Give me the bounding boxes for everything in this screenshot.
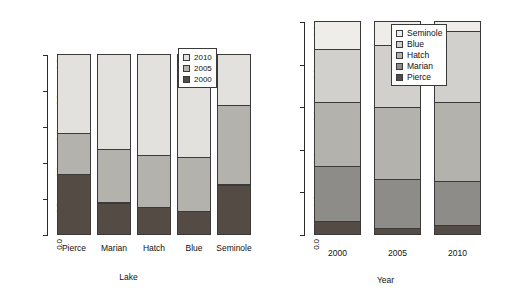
chart-panel-lake: 0.00.20.40.60.81.0PierceMarianHatchBlueS… (0, 0, 257, 301)
bar-segment-marian (434, 181, 481, 227)
bar-segment-hatch (314, 102, 361, 167)
legend-item-label: 2010 (194, 53, 212, 62)
x-axis-title-year: Year (257, 275, 514, 285)
bar-segment-seminole (314, 21, 361, 50)
bar-segment-marian (374, 179, 421, 229)
legend-years[interactable]: 201020052000 (178, 48, 217, 88)
y-axis-tick (43, 163, 47, 164)
legend-item-label: 2000 (194, 75, 212, 84)
legend-swatch-icon (183, 76, 190, 83)
bar-segment-2000 (177, 211, 211, 235)
bar-hatch (137, 55, 171, 235)
legend-item-seminole[interactable]: Seminole (396, 28, 442, 38)
legend-item-label: Hatch (407, 51, 429, 60)
legend-item-label: 2005 (194, 64, 212, 73)
legend-item-hatch[interactable]: Hatch (396, 50, 442, 60)
bar-segment-hatch (434, 102, 481, 182)
bar-segment-pierce (434, 225, 481, 235)
bar-segment-2000 (137, 207, 171, 235)
bar-marian (97, 55, 131, 235)
bar-segment-pierce (314, 221, 361, 235)
bar-segment-marian (314, 166, 361, 222)
bar-segment-2010 (97, 54, 131, 150)
chart-panel-year: 0.00.20.40.60.81.0200020052010 SeminoleB… (257, 0, 514, 301)
legend-swatch-icon (396, 30, 403, 37)
y-axis-tick (43, 91, 47, 92)
y-axis-tick (43, 235, 47, 236)
y-axis-tick (300, 192, 304, 193)
x-axis-label-seminole: Seminole (205, 243, 263, 253)
legend-item-2010[interactable]: 2010 (183, 52, 212, 62)
figure-root: 0.00.20.40.60.81.0PierceMarianHatchBlueS… (0, 0, 514, 301)
legend-item-blue[interactable]: Blue (396, 39, 442, 49)
bar-segment-2000 (57, 174, 91, 235)
bar-segment-2005 (97, 149, 131, 203)
legend-item-label: Seminole (407, 29, 442, 38)
bar-segment-2010 (57, 54, 91, 134)
bar-2000 (314, 22, 361, 235)
bar-segment-hatch (374, 107, 421, 179)
y-axis-tick (300, 150, 304, 151)
legend-item-label: Marian (407, 62, 433, 71)
legend-swatch-icon (183, 65, 190, 72)
bar-segment-2005 (137, 155, 171, 208)
bar-segment-blue (314, 49, 361, 103)
y-axis-tick (43, 127, 47, 128)
bar-segment-2010 (217, 54, 251, 106)
y-axis-tick (300, 107, 304, 108)
x-axis-title-lake: Lake (0, 272, 257, 282)
y-axis-tick (300, 65, 304, 66)
y-axis-tick (43, 55, 47, 56)
legend-item-2005[interactable]: 2005 (183, 63, 212, 73)
bar-segment-2000 (217, 185, 251, 236)
legend-item-label: Blue (407, 40, 424, 49)
legend-lakes[interactable]: SeminoleBlueHatchMarianPierce (391, 24, 447, 86)
bar-pierce (57, 55, 91, 235)
bar-segment-2000 (97, 203, 131, 236)
y-axis-line (47, 55, 48, 236)
legend-swatch-icon (396, 63, 403, 70)
legend-swatch-icon (396, 74, 403, 81)
legend-item-pierce[interactable]: Pierce (396, 72, 442, 82)
bar-segment-2010 (137, 54, 171, 156)
bar-segment-pierce (374, 228, 421, 235)
legend-item-marian[interactable]: Marian (396, 61, 442, 71)
bar-seminole (217, 55, 251, 235)
legend-item-label: Pierce (407, 73, 431, 82)
x-axis-label-2010: 2010 (422, 248, 493, 258)
legend-swatch-icon (396, 41, 403, 48)
bar-segment-2005 (217, 105, 251, 185)
y-axis-tick (300, 235, 304, 236)
y-axis-line (304, 22, 305, 236)
legend-item-2000[interactable]: 2000 (183, 74, 212, 84)
legend-swatch-icon (396, 52, 403, 59)
bar-segment-2005 (177, 157, 211, 212)
y-axis-tick (43, 199, 47, 200)
bar-segment-2005 (57, 133, 91, 175)
legend-swatch-icon (183, 54, 190, 61)
y-axis-tick (300, 22, 304, 23)
